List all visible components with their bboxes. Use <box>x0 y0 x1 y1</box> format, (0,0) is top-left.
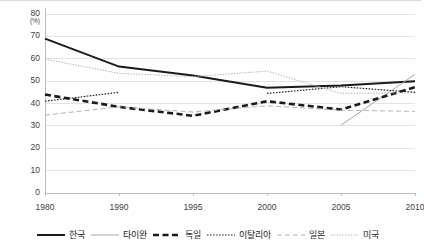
y-axis-tick-label: 10 <box>14 166 40 175</box>
legend-item-label: 일본 <box>309 230 325 241</box>
legend-item[interactable]: 타이완 <box>91 230 147 241</box>
series-line <box>45 87 415 116</box>
legend-item-label: 한국 <box>69 230 85 241</box>
legend-item[interactable]: 독일 <box>153 230 201 241</box>
y-axis-tick-label: 20 <box>14 143 40 152</box>
plot-area <box>0 0 421 200</box>
x-axis-tick-label: 1995 <box>184 202 203 212</box>
legend-item[interactable]: 이탈리아 <box>207 230 271 241</box>
y-axis-tick-label: 40 <box>14 99 40 108</box>
legend-item-label: 독일 <box>185 230 201 241</box>
series-line <box>45 59 415 93</box>
x-axis: 198019901995200020052010 <box>0 196 421 216</box>
legend-swatch-icon <box>277 230 305 240</box>
series-line <box>45 39 415 88</box>
legend-item[interactable]: 미국 <box>331 230 379 241</box>
legend-swatch-icon <box>207 230 235 240</box>
chart-legend: 한국타이완독일이탈리아일본미국 <box>0 222 421 248</box>
legend-swatch-icon <box>91 230 119 240</box>
legend-swatch-icon <box>331 230 359 240</box>
legend-swatch-icon <box>37 230 65 240</box>
y-axis-tick-label: 60 <box>14 54 40 63</box>
x-axis-tick-label: 2000 <box>258 202 277 212</box>
y-axis-unit-label: (%) <box>14 17 40 24</box>
series-line <box>45 106 415 115</box>
plot-svg <box>0 0 421 200</box>
y-axis-tick-label: 30 <box>14 121 40 130</box>
legend-item[interactable]: 한국 <box>37 230 85 241</box>
x-axis-tick-label: 1990 <box>110 202 129 212</box>
x-axis-tick-label: 1980 <box>36 202 55 212</box>
y-axis: 01020304050607080(%) <box>0 0 40 200</box>
legend-item-label: 타이완 <box>123 230 147 241</box>
y-axis-tick-label: 50 <box>14 76 40 85</box>
x-axis-tick-label: 2010 <box>406 202 424 212</box>
legend-item-label: 이탈리아 <box>239 230 271 241</box>
y-axis-tick-label: 70 <box>14 31 40 40</box>
legend-swatch-icon <box>153 230 181 240</box>
x-axis-tick-label: 2005 <box>332 202 351 212</box>
series-line <box>341 74 415 125</box>
legend-item-label: 미국 <box>363 230 379 241</box>
legend-item[interactable]: 일본 <box>277 230 325 241</box>
